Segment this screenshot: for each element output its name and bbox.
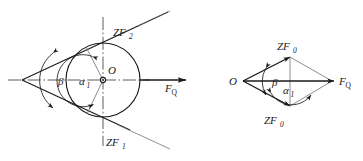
tangent-lower-subscript: 1 [122,142,126,151]
edge-bottom-to-right [290,81,332,106]
edge-origin-to-top [243,57,290,81]
alpha-angle-label: α [79,75,85,87]
force-q-label-right-group: F Q [338,75,352,90]
engineering-figure: O β α 1 F Q ZF 2 ZF 1 [0,0,363,161]
tangent-lower-label: ZF [106,136,119,148]
vertex-top-subscript: 0 [293,46,297,55]
tangent-upper-subscript: 2 [129,32,133,41]
lower-tangent-line [22,80,130,130]
right-diagram-group: O β α 1 F Q ZF 0 ZF 0 [229,40,352,129]
vertex-top-label: ZF [277,40,290,52]
vertex-bottom-label: ZF [264,114,277,126]
beta-angle-arc [40,53,53,108]
tangent-upper-label: ZF [113,26,126,38]
force-q-label-group: F Q [164,82,178,97]
edge-top-to-right [290,57,332,81]
alpha-angle-label-right: α [283,84,289,96]
center-point-dot [102,79,104,81]
alpha-angle-label-group: α 1 [79,75,90,90]
vertex-bottom-subscript: 0 [280,120,284,129]
center-point-label: O [108,64,116,76]
tangent-upper-label-group: ZF 2 [113,26,133,41]
lower-tangent-extension [118,125,170,149]
beta-angle-label: β [57,75,64,87]
alpha-angle-label-right-group: α 1 [283,84,294,99]
alpha-angle-subscript-right: 1 [291,90,295,99]
force-q-subscript-right: Q [346,81,352,90]
left-diagram-group: O β α 1 F Q ZF 2 ZF 1 [8,11,186,151]
alpha-angle-subscript: 1 [87,81,91,90]
tangent-lower-label-group: ZF 1 [106,136,126,151]
origin-point-label-right: O [229,75,237,87]
upper-tangent-extension [138,11,170,26]
radius-to-upper-tangent [86,47,103,80]
beta-angle-label-right: β [271,76,278,88]
vertex-top-label-group: ZF 0 [277,40,297,55]
vertex-bottom-label-group: ZF 0 [264,114,284,129]
figure-root: O β α 1 F Q ZF 2 ZF 1 [0,0,363,161]
force-q-subscript: Q [172,88,178,97]
